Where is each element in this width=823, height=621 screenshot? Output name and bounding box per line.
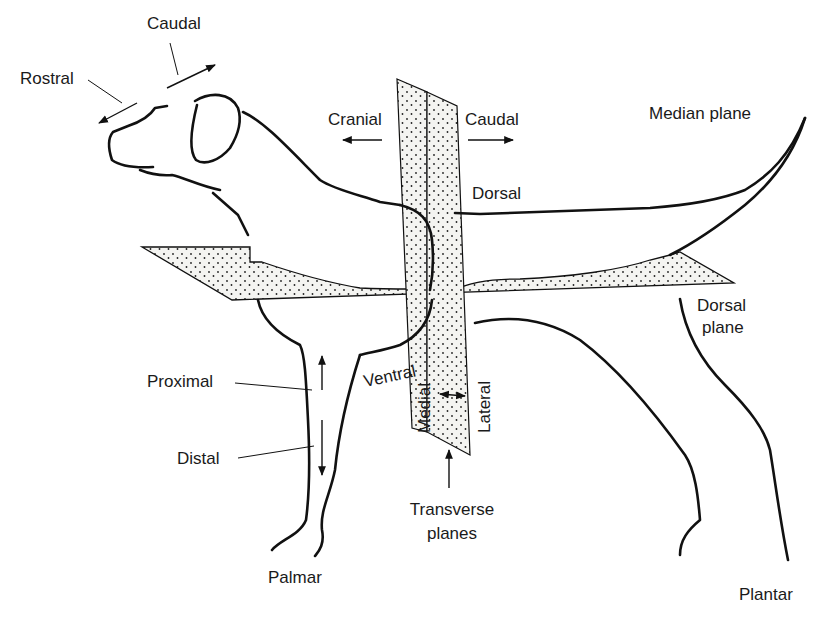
label-lateral: Lateral xyxy=(475,381,495,433)
label-palmar: Palmar xyxy=(268,568,322,588)
label-dorsal: Dorsal xyxy=(472,184,521,204)
label-rostral: Rostral xyxy=(20,69,74,89)
label-caudal-body: Caudal xyxy=(465,110,519,130)
label-cranial: Cranial xyxy=(328,110,382,130)
label-proximal: Proximal xyxy=(147,372,213,392)
label-median-plane: Median plane xyxy=(649,104,751,124)
label-caudal-head: Caudal xyxy=(147,14,201,34)
rostral-arrow xyxy=(99,103,137,123)
label-transverse-line1: Transverse xyxy=(397,500,507,520)
label-dorsal-plane-line1: Dorsal xyxy=(697,296,746,316)
label-transverse-line2: planes xyxy=(397,524,507,544)
dog-anatomy-diagram: Caudal Rostral Cranial Caudal Median pla… xyxy=(0,0,823,621)
label-plantar: Plantar xyxy=(739,585,793,605)
caudal-head-arrow xyxy=(167,65,215,88)
label-dorsal-plane-line2: plane xyxy=(702,318,744,338)
label-distal: Distal xyxy=(177,449,220,469)
label-medial: Medial xyxy=(415,383,435,433)
